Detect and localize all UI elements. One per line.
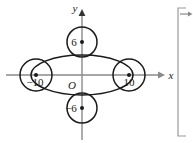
circle-top-label: 6 (71, 36, 77, 48)
circle-right-label: 10 (124, 76, 136, 88)
circle-bottom-label: −6 (65, 102, 77, 114)
diagram-canvas: −10 10 6 −6 x y O (0, 0, 193, 143)
bracket-outline (178, 8, 186, 136)
origin-label: O (68, 79, 76, 91)
y-axis-arrowhead (79, 9, 86, 16)
circle-left-label: −10 (26, 76, 44, 88)
center-dot-bottom (80, 106, 84, 110)
x-axis-label: x (168, 69, 174, 81)
x-axis-arrowhead (158, 72, 165, 79)
right-edge-bracket (178, 8, 193, 136)
geometry-figure: −10 10 6 −6 x y O (0, 0, 193, 143)
center-dot-top (80, 40, 84, 44)
bracket-arrow-head (188, 12, 193, 17)
y-axis-label: y (72, 2, 78, 14)
